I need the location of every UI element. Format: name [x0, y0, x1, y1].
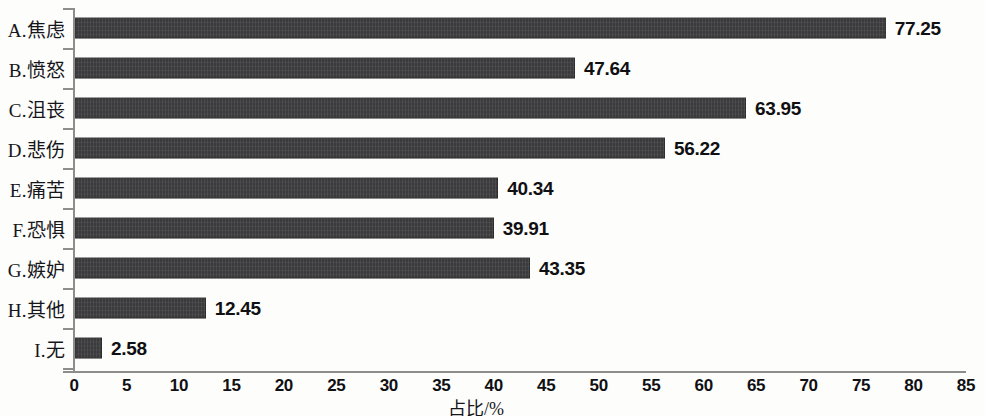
y-axis-tick: [63, 88, 74, 90]
x-axis-tick-label: 50: [579, 376, 619, 396]
y-axis-tick: [63, 8, 74, 10]
bar-with-value: 43.35: [75, 258, 585, 279]
bar-chart-figure: A.焦虑77.25B.愤怒47.64C.沮丧63.95D.悲伤56.22E.痛苦…: [0, 0, 985, 416]
category-label: G.嫉妒: [0, 255, 65, 282]
category-label: E.痛苦: [0, 175, 65, 202]
bar-value-label: 12.45: [215, 297, 261, 319]
category-label: C.沮丧: [0, 95, 65, 122]
bar-with-value: 39.91: [75, 218, 549, 239]
bar-with-value: 63.95: [75, 98, 801, 119]
bar-value-label: 39.91: [503, 217, 549, 239]
category-label: F.恐惧: [0, 215, 65, 242]
x-axis-tick-label: 0: [54, 376, 94, 396]
category-label: B.愤怒: [0, 55, 65, 82]
bar: [75, 338, 102, 359]
bar-with-value: 40.34: [75, 178, 553, 199]
bar: [75, 18, 886, 39]
y-axis-tick: [63, 128, 74, 130]
bar-row: E.痛苦40.34: [0, 168, 985, 208]
bar-value-label: 63.95: [755, 97, 801, 119]
y-axis-tick: [63, 48, 74, 50]
x-axis-title: 占比/%: [448, 394, 504, 416]
x-axis-tick-label: 65: [736, 376, 776, 396]
y-axis-tick: [63, 368, 74, 370]
x-axis-tick-label: 35: [421, 376, 461, 396]
x-axis-tick-label: 45: [526, 376, 566, 396]
bar-with-value: 12.45: [75, 298, 261, 319]
bar-value-label: 56.22: [674, 137, 720, 159]
bar-value-label: 40.34: [507, 177, 553, 199]
bar: [75, 138, 665, 159]
bar-value-label: 77.25: [895, 17, 941, 39]
x-axis-tick-label: 55: [631, 376, 671, 396]
bar-row: B.愤怒47.64: [0, 48, 985, 88]
bar-row: F.恐惧39.91: [0, 208, 985, 248]
category-label: I.无: [0, 335, 65, 362]
x-axis-tick-label: 40: [474, 376, 514, 396]
bar: [75, 258, 530, 279]
bar-value-label: 2.58: [111, 337, 147, 359]
y-axis-tick: [63, 248, 74, 250]
x-axis-line: [63, 371, 966, 373]
x-axis-tick-label: 85: [946, 376, 985, 396]
bar: [75, 298, 206, 319]
bar: [75, 178, 498, 199]
bar-row: C.沮丧63.95: [0, 88, 985, 128]
category-label: H.其他: [0, 295, 65, 322]
x-axis-tick-label: 60: [684, 376, 724, 396]
bar-row: I.无2.58: [0, 328, 985, 368]
x-axis-tick-label: 10: [159, 376, 199, 396]
bar-with-value: 56.22: [75, 138, 720, 159]
bar-value-label: 43.35: [539, 257, 585, 279]
bar-value-label: 47.64: [584, 57, 630, 79]
x-axis-tick-label: 15: [211, 376, 251, 396]
x-axis-tick-label: 75: [841, 376, 881, 396]
bar-with-value: 47.64: [75, 58, 630, 79]
bar: [75, 58, 575, 79]
x-axis-tick-label: 25: [316, 376, 356, 396]
bar-with-value: 2.58: [75, 338, 147, 359]
y-axis-tick: [63, 168, 74, 170]
x-axis-tick-label: 20: [264, 376, 304, 396]
x-axis-tick-label: 70: [789, 376, 829, 396]
bar-row: H.其他12.45: [0, 288, 985, 328]
bar: [75, 98, 746, 119]
x-axis-tick-label: 30: [369, 376, 409, 396]
bar-row: D.悲伤56.22: [0, 128, 985, 168]
category-label: D.悲伤: [0, 135, 65, 162]
y-axis-tick: [63, 328, 74, 330]
bar-row: G.嫉妒43.35: [0, 248, 985, 288]
x-axis-tick-label: 5: [106, 376, 146, 396]
category-label: A.焦虑: [0, 15, 65, 42]
y-axis-tick: [63, 288, 74, 290]
bar-with-value: 77.25: [75, 18, 941, 39]
bar-row: A.焦虑77.25: [0, 8, 985, 48]
y-axis-tick: [63, 208, 74, 210]
x-axis-tick-label: 80: [894, 376, 934, 396]
bar: [75, 218, 494, 239]
